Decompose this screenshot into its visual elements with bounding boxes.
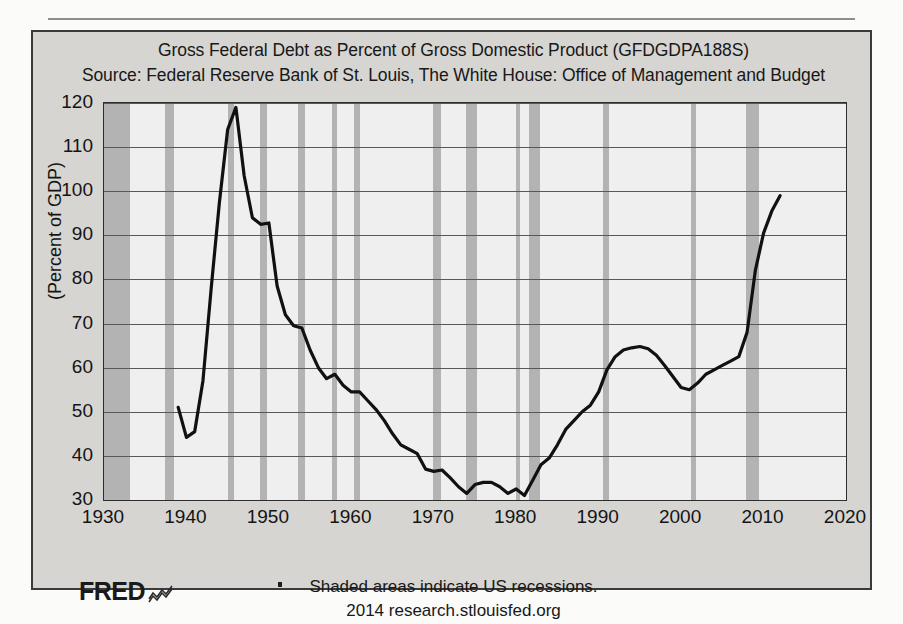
y-tick-label: 100 bbox=[47, 179, 93, 201]
attribution-line: 2014 research.stlouisfed.org bbox=[33, 601, 874, 621]
x-tick-label: 1990 bbox=[577, 506, 619, 528]
debt-series-line bbox=[104, 103, 846, 500]
y-tick-label: 40 bbox=[47, 444, 93, 466]
x-tick-label: 2000 bbox=[659, 506, 701, 528]
x-tick-label: 2020 bbox=[824, 506, 866, 528]
x-tick-label: 1930 bbox=[82, 506, 124, 528]
y-tick-label: 90 bbox=[47, 223, 93, 245]
y-tick-label: 80 bbox=[47, 267, 93, 289]
x-tick-label: 1950 bbox=[247, 506, 289, 528]
x-tick-label: 1940 bbox=[164, 506, 206, 528]
plot-inner bbox=[104, 103, 846, 500]
recession-note: Shaded areas indicate US recessions. bbox=[33, 577, 874, 597]
y-tick-label: 50 bbox=[47, 400, 93, 422]
page-separator-rule bbox=[48, 18, 855, 20]
chart-title: Gross Federal Debt as Percent of Gross D… bbox=[33, 38, 874, 63]
y-tick-label: 60 bbox=[47, 356, 93, 378]
fred-chart-card: Gross Federal Debt as Percent of Gross D… bbox=[31, 30, 872, 590]
chart-title-block: Gross Federal Debt as Percent of Gross D… bbox=[33, 38, 874, 88]
x-tick-label: 1960 bbox=[329, 506, 371, 528]
plot-area bbox=[103, 102, 847, 501]
x-tick-label: 1980 bbox=[494, 506, 536, 528]
chart-source-line: Source: Federal Reserve Bank of St. Loui… bbox=[33, 63, 874, 88]
y-tick-label: 70 bbox=[47, 312, 93, 334]
y-tick-label: 120 bbox=[47, 91, 93, 113]
x-tick-label: 2010 bbox=[741, 506, 783, 528]
x-tick-label: 1970 bbox=[412, 506, 454, 528]
y-tick-label: 110 bbox=[47, 135, 93, 157]
